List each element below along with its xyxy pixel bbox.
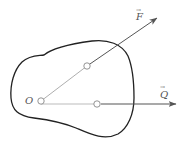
origin-label: O: [25, 95, 33, 106]
force-f-vector-mark: →: [136, 6, 141, 13]
origin-point: [38, 98, 44, 104]
body-outline: [11, 41, 134, 137]
f-application-point: [84, 63, 90, 69]
force-f-arrow: [87, 18, 157, 66]
force-q-vector-mark: →: [160, 83, 165, 90]
q-application-point: [94, 101, 100, 107]
force-q-label: Q: [160, 89, 168, 100]
force-diagram: O F → Q →: [0, 0, 189, 144]
line-o-to-f-point: [41, 66, 87, 101]
